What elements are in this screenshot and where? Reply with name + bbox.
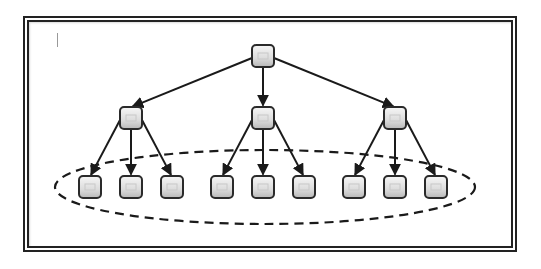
nodes	[79, 45, 447, 198]
node-leaf-6	[293, 176, 315, 198]
node-mid-left	[120, 107, 142, 129]
edge-arrow	[274, 120, 303, 175]
node-leaf-8	[384, 176, 406, 198]
node-mid-right	[384, 107, 406, 129]
node-leaf-1	[79, 176, 101, 198]
tree-diagram	[0, 0, 541, 269]
node-mid-center	[252, 107, 274, 129]
edge-arrow	[132, 58, 252, 107]
edge-arrow	[406, 120, 435, 175]
edge-arrow	[142, 120, 171, 175]
edge-arrow	[274, 58, 394, 107]
edge-arrow	[355, 120, 384, 175]
node-leaf-2	[120, 176, 142, 198]
node-leaf-7	[343, 176, 365, 198]
edge-arrow	[91, 120, 120, 175]
node-leaf-3	[161, 176, 183, 198]
node-leaf-4	[211, 176, 233, 198]
node-leaf-5	[252, 176, 274, 198]
node-leaf-9	[425, 176, 447, 198]
node-root	[252, 45, 274, 67]
edge-arrow	[223, 120, 252, 175]
